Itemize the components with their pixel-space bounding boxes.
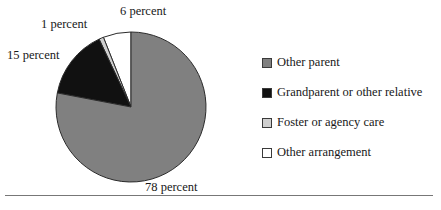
slice-label-other-arrangement: 6 percent [120, 5, 166, 18]
legend-item-foster: Foster or agency care [262, 112, 440, 133]
pie-chart-figure: 78 percent 15 percent 1 percent 6 percen… [0, 0, 441, 210]
slice-label-grandparent: 15 percent [7, 49, 59, 62]
legend-swatch-other-parent [262, 58, 272, 68]
legend-item-other-parent: Other parent [262, 52, 440, 73]
bottom-divider-rule [5, 195, 433, 196]
legend-swatch-foster [262, 118, 272, 128]
legend-label-other-arrangement: Other arrangement [277, 146, 371, 159]
legend-item-grandparent: Grandparent or other relative [262, 82, 440, 103]
legend-label-other-parent: Other parent [277, 56, 340, 69]
slice-label-other-parent: 78 percent [145, 181, 197, 194]
legend-swatch-other-arrangement [262, 148, 272, 158]
legend-item-other-arrangement: Other arrangement [262, 142, 440, 163]
slice-label-foster: 1 percent [41, 18, 87, 31]
legend-label-grandparent: Grandparent or other relative [277, 86, 422, 99]
legend-swatch-grandparent [262, 88, 272, 98]
legend-label-foster: Foster or agency care [277, 116, 384, 129]
pie-slices-group [56, 32, 206, 182]
chart-legend: Other parent Grandparent or other relati… [262, 52, 440, 163]
